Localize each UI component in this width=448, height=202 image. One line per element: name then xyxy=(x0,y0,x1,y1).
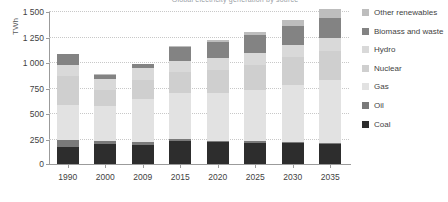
x-axis-tick-label: 2025 xyxy=(246,172,265,182)
x-axis-tick-label: 2035 xyxy=(321,172,340,182)
bar-segment[interactable] xyxy=(282,45,304,58)
bar-group[interactable] xyxy=(57,54,79,164)
bar-segment[interactable] xyxy=(282,26,304,45)
bar-segment[interactable] xyxy=(57,105,79,140)
legend-swatch-icon xyxy=(362,65,369,72)
x-axis-tick-mark xyxy=(330,164,331,168)
chart-legend: Other renewablesBiomass and wasteHydroNu… xyxy=(362,8,443,138)
legend-item[interactable]: Other renewables xyxy=(362,8,443,17)
bar-segment[interactable] xyxy=(244,53,266,65)
legend-item[interactable]: Nuclear xyxy=(362,64,443,73)
y-axis-tick-label: 1 250 xyxy=(23,33,44,43)
x-axis-tick-label: 2030 xyxy=(283,172,302,182)
y-axis-tick-label: 1 500 xyxy=(23,7,44,17)
bar-segment[interactable] xyxy=(244,90,266,141)
bar-group[interactable] xyxy=(132,64,154,164)
legend-swatch-icon xyxy=(362,9,369,16)
bar-segment[interactable] xyxy=(319,144,341,164)
bar-group[interactable] xyxy=(94,74,116,164)
bar-segment[interactable] xyxy=(207,142,229,164)
legend-item[interactable]: Coal xyxy=(362,120,443,129)
bar-segment[interactable] xyxy=(169,93,191,139)
bar-segment[interactable] xyxy=(169,141,191,164)
bar-segment[interactable] xyxy=(57,147,79,164)
legend-swatch-icon xyxy=(362,46,369,53)
legend-swatch-icon xyxy=(362,102,369,109)
legend-label: Biomass and waste xyxy=(374,27,443,36)
legend-item[interactable]: Biomass and waste xyxy=(362,27,443,36)
x-axis-tick-label: 2000 xyxy=(96,172,115,182)
bar-segment[interactable] xyxy=(94,79,116,90)
x-axis-tick-mark xyxy=(255,164,256,168)
x-axis-tick-mark xyxy=(180,164,181,168)
y-axis-tick-label: 750 xyxy=(30,84,44,94)
legend-swatch-icon xyxy=(362,28,369,35)
legend-label: Other renewables xyxy=(374,8,437,17)
bar-segment[interactable] xyxy=(94,90,116,106)
bar-segment[interactable] xyxy=(207,70,229,93)
bar-segment[interactable] xyxy=(94,144,116,164)
y-axis-tick-label: 1 000 xyxy=(23,58,44,68)
bar-segment[interactable] xyxy=(169,47,191,60)
legend-swatch-icon xyxy=(362,121,369,128)
x-axis-tick-label: 2009 xyxy=(133,172,152,182)
y-axis-tick-label: 500 xyxy=(30,109,44,119)
bar-group[interactable] xyxy=(207,40,229,164)
chart-title: Global electricity generation by source xyxy=(110,0,360,5)
x-axis-tick-label: 2015 xyxy=(171,172,190,182)
plot-area: 02505007501 0001 2501 500 xyxy=(49,11,349,164)
bar-group[interactable] xyxy=(244,32,266,164)
bar-group[interactable] xyxy=(282,20,304,164)
bar-segment[interactable] xyxy=(319,9,341,18)
legend-label: Coal xyxy=(374,120,390,129)
bar-segment[interactable] xyxy=(132,80,154,99)
bar-segment[interactable] xyxy=(319,51,341,81)
bar-segment[interactable] xyxy=(207,42,229,58)
x-axis-tick-mark xyxy=(143,164,144,168)
x-axis-tick-mark xyxy=(218,164,219,168)
y-axis-title: TWh xyxy=(11,7,20,47)
legend-item[interactable]: Oil xyxy=(362,101,443,110)
bar-segment[interactable] xyxy=(244,65,266,90)
y-axis-tick-label: 0 xyxy=(39,159,44,169)
bar-segment[interactable] xyxy=(319,18,341,38)
bar-segment[interactable] xyxy=(57,65,79,76)
bar-series-container xyxy=(49,11,349,164)
y-axis-tick-mark xyxy=(46,164,49,165)
legend-label: Gas xyxy=(374,82,389,91)
bar-segment[interactable] xyxy=(169,61,191,72)
bar-segment[interactable] xyxy=(169,72,191,93)
x-axis-tick-label: 1990 xyxy=(58,172,77,182)
bar-group[interactable] xyxy=(169,46,191,164)
bar-segment[interactable] xyxy=(57,54,79,64)
bar-segment[interactable] xyxy=(207,58,229,70)
x-axis-tick-mark xyxy=(293,164,294,168)
x-axis-tick-mark xyxy=(105,164,106,168)
stacked-bar-chart: Global electricity generation by source … xyxy=(0,0,448,202)
bar-segment[interactable] xyxy=(57,140,79,147)
bar-segment[interactable] xyxy=(282,143,304,164)
bar-segment[interactable] xyxy=(132,145,154,164)
x-axis-tick-mark xyxy=(68,164,69,168)
legend-item[interactable]: Gas xyxy=(362,82,443,91)
y-axis-tick-label: 250 xyxy=(30,135,44,145)
legend-label: Nuclear xyxy=(374,64,402,73)
bar-segment[interactable] xyxy=(244,143,266,164)
legend-item[interactable]: Hydro xyxy=(362,45,443,54)
bar-segment[interactable] xyxy=(282,57,304,85)
x-axis-line xyxy=(49,164,351,165)
bar-segment[interactable] xyxy=(319,80,341,142)
bar-segment[interactable] xyxy=(244,35,266,53)
legend-swatch-icon xyxy=(362,83,369,90)
bar-segment[interactable] xyxy=(319,38,341,51)
legend-label: Oil xyxy=(374,101,384,110)
bar-segment[interactable] xyxy=(207,93,229,141)
bar-segment[interactable] xyxy=(94,106,116,141)
bar-segment[interactable] xyxy=(282,85,304,142)
bar-segment[interactable] xyxy=(132,68,154,79)
bar-group[interactable] xyxy=(319,9,341,165)
x-axis-tick-label: 2020 xyxy=(208,172,227,182)
bar-segment[interactable] xyxy=(132,99,154,142)
legend-label: Hydro xyxy=(374,45,395,54)
bar-segment[interactable] xyxy=(57,76,79,106)
